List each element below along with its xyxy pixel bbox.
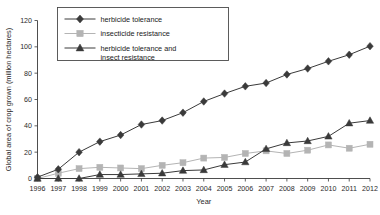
y-axis-title: Global area of crop grown (million hecta… [4,28,13,171]
data-point-triangle [366,117,373,123]
y-axis-tick-label: 100 [20,43,32,51]
data-point-square [76,166,82,172]
data-point-diamond [200,98,207,106]
x-axis-tick-label: 2004 [196,185,212,193]
data-point-diamond [221,90,228,98]
data-point-square [77,30,83,36]
data-point-square [222,154,228,160]
chart-figure: 0204060801001201996199719981999200020012… [0,0,380,215]
y-axis-tick-label: 0 [28,175,32,183]
y-axis-tick-label: 80 [24,70,32,78]
legend-label-line2: insect resistance [101,53,155,62]
x-axis-tick-label: 2010 [321,185,337,193]
data-point-square [325,142,331,148]
data-point-square [97,164,103,170]
data-point-triangle [325,133,332,139]
x-axis-title: Year [196,197,211,206]
x-axis-tick-label: 2009 [300,185,316,193]
x-axis-tick-label: 2006 [237,185,253,193]
data-point-diamond [304,65,311,73]
data-point-diamond [263,79,270,87]
y-axis-tick-label: 120 [20,17,32,25]
y-axis-tick-label: 40 [24,122,32,130]
data-point-triangle [242,158,249,164]
x-axis-tick-label: 1998 [71,185,87,193]
legend-label: insecticide resistance [101,29,170,38]
data-point-diamond [325,58,332,66]
data-point-square [201,155,207,161]
data-point-square [346,145,352,151]
x-axis-tick-label: 1997 [50,185,66,193]
data-point-square [242,150,248,156]
data-point-diamond [76,148,83,156]
x-axis-tick-label: 1999 [92,185,108,193]
x-axis-tick-label: 2007 [258,185,274,193]
series-square [35,141,374,181]
legend-label: herbicide tolerance and [101,44,177,53]
x-axis-tick-label: 2002 [154,185,170,193]
data-point-diamond [242,83,249,91]
data-point-diamond [367,42,374,50]
x-axis-tick-label: 2011 [342,185,357,193]
legend-label: herbicide tolerance [101,15,163,24]
data-point-square [305,147,311,153]
y-axis-tick-label: 20 [24,149,32,157]
data-point-diamond [138,121,145,128]
data-point-square [118,165,124,171]
data-point-square [159,162,165,168]
data-point-diamond [284,71,291,79]
data-point-diamond [97,138,104,146]
data-point-square [284,150,290,156]
x-axis-tick-label: 2008 [279,185,295,193]
data-point-diamond [346,51,353,59]
x-axis-tick-label: 2005 [217,185,233,193]
data-point-diamond [180,109,187,117]
data-point-square [180,160,186,166]
data-point-square [367,141,373,147]
line-chart: 0204060801001201996199719981999200020012… [0,0,380,215]
x-axis-tick-label: 2012 [362,185,378,193]
x-axis-tick-label: 1996 [30,185,46,193]
chart-legend: herbicide toleranceinsecticide resistanc… [58,8,229,63]
data-point-diamond [117,131,124,139]
x-axis-tick-label: 2001 [134,185,150,193]
data-point-diamond [159,117,166,125]
x-axis-tick-label: 2003 [175,185,191,193]
data-point-triangle [96,171,103,177]
series-line [38,144,371,178]
y-axis-tick-label: 60 [24,96,32,104]
x-axis-tick-label: 2000 [113,185,129,193]
